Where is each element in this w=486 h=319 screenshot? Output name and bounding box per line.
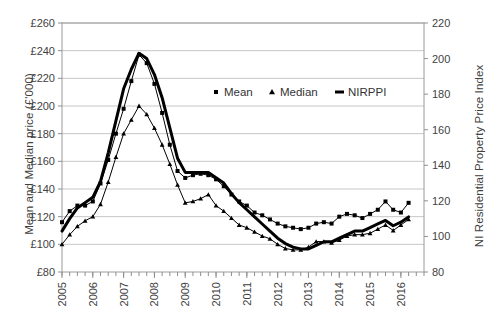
data-point-marker [383, 199, 387, 203]
legend-label: Median [280, 86, 318, 98]
y-tick-label-right: 80 [432, 266, 444, 278]
chart-legend: MeanMedianNIRPPI [214, 86, 386, 98]
data-point-marker [206, 192, 211, 196]
data-point-marker [360, 216, 364, 220]
legend-item-nirppi[interactable]: NIRPPI [335, 86, 386, 98]
x-tick-label: 2008 [148, 282, 160, 306]
data-point-marker [283, 224, 287, 228]
series-mean [60, 53, 411, 231]
data-point-marker [399, 211, 403, 215]
x-tick-label: 2016 [395, 282, 407, 306]
data-point-marker [330, 222, 334, 226]
data-point-marker [322, 220, 326, 224]
data-point-marker [314, 222, 318, 226]
y-tick-label-right: 180 [432, 88, 450, 100]
data-point-marker [368, 212, 372, 216]
y-tick-label-left: £80 [37, 266, 55, 278]
series-nirppi [62, 53, 409, 249]
data-point-marker [306, 226, 310, 230]
chart-plot-area: £80£100£120£140£160£180£200£220£240£2608… [0, 0, 486, 319]
chart-container: Mean and Median price (£'000) NI Residen… [0, 0, 486, 319]
legend-item-mean[interactable]: Mean [214, 86, 253, 98]
y-tick-label-right: 220 [432, 17, 450, 29]
legend-square-icon [214, 90, 218, 94]
data-point-marker [299, 227, 303, 231]
data-point-marker [106, 180, 111, 184]
x-tick-label: 2009 [179, 282, 191, 306]
data-point-marker [353, 213, 357, 217]
data-point-marker [152, 126, 157, 130]
axes: £80£100£120£140£160£180£200£220£240£2608… [31, 17, 451, 306]
data-point-marker [276, 222, 280, 226]
data-point-marker [168, 143, 172, 147]
data-point-marker [407, 201, 411, 205]
data-point-marker [198, 196, 203, 200]
x-tick-label: 2010 [210, 282, 222, 306]
data-point-marker [129, 79, 133, 83]
data-point-marker [376, 208, 380, 212]
data-point-marker [252, 229, 257, 233]
x-tick-label: 2006 [87, 282, 99, 306]
data-point-marker [337, 215, 341, 219]
series-line [62, 55, 409, 229]
data-point-marker [268, 217, 272, 221]
legend-triangle-icon [269, 89, 275, 94]
data-point-marker [183, 176, 187, 180]
x-tick-label: 2015 [364, 282, 376, 306]
legend-item-median[interactable]: Median [269, 86, 318, 98]
x-tick-label: 2014 [333, 282, 345, 306]
data-point-marker [60, 220, 64, 224]
data-point-marker [114, 155, 119, 159]
data-point-marker [122, 107, 126, 111]
y-tick-label-right: 140 [432, 159, 450, 171]
legend-label: Mean [224, 86, 253, 98]
data-point-marker [260, 234, 265, 238]
legend-label: NIRPPI [348, 86, 386, 98]
data-point-marker [283, 246, 288, 250]
y-tick-label-right: 120 [432, 195, 450, 207]
series-median [60, 104, 411, 252]
data-point-marker [375, 227, 380, 231]
data-point-marker [160, 142, 165, 146]
y-tick-label-left: £260 [31, 17, 55, 29]
y-tick-label-right: 160 [432, 124, 450, 136]
x-tick-label: 2005 [56, 282, 68, 306]
data-point-marker [260, 213, 264, 217]
data-point-marker [160, 111, 164, 115]
data-point-marker [98, 202, 103, 206]
data-point-marker [391, 208, 395, 212]
data-point-marker [175, 182, 180, 186]
x-tick-label: 2011 [241, 282, 253, 306]
data-point-marker [129, 117, 134, 121]
series-line [62, 53, 409, 249]
data-point-marker [368, 231, 373, 235]
data-point-marker [176, 169, 180, 173]
y-tick-label-right: 100 [432, 230, 450, 242]
y-axis-title-right: NI Residential Property Price Index [473, 26, 485, 286]
data-point-marker [167, 162, 172, 166]
data-point-marker [68, 209, 72, 213]
data-point-marker [345, 212, 349, 216]
x-tick-label: 2013 [302, 282, 314, 306]
y-axis-title-left: Mean and Median price (£'000) [23, 39, 35, 269]
data-point-marker [291, 226, 295, 230]
x-tick-label: 2007 [118, 282, 130, 306]
data-point-marker [83, 218, 88, 222]
y-tick-label-right: 200 [432, 53, 450, 65]
x-tick-label: 2012 [272, 282, 284, 306]
